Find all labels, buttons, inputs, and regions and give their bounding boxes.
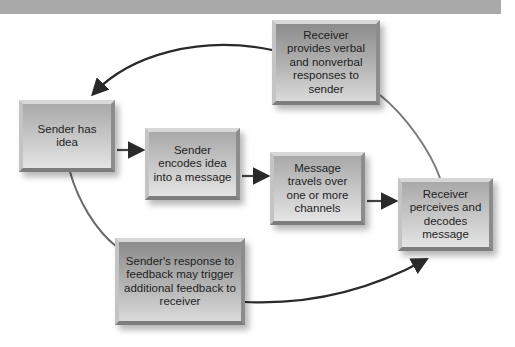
connector-arrows [0, 0, 515, 347]
node-label: Message travels over one or more channel… [274, 162, 361, 216]
node-label: Receiver perceives and decodes message [402, 188, 489, 242]
line-idea-to-response [70, 172, 117, 247]
node-label: Sender encodes idea into a message [149, 144, 236, 185]
arrow-response-to-receiver [245, 260, 425, 302]
node-label: Receiver provides verbal and nonverbal r… [276, 29, 376, 97]
node-label: Sender has idea [23, 123, 111, 150]
node-sender-encodes: Sender encodes idea into a message [145, 128, 240, 200]
node-sender-response: Sender's response to feedback may trigge… [115, 238, 245, 325]
node-receiver-perceives: Receiver perceives and decodes message [398, 178, 493, 251]
arrow-feedback-to-sender [94, 45, 272, 93]
node-receiver-provides: Receiver provides verbal and nonverbal r… [272, 20, 380, 105]
node-sender-has-idea: Sender has idea [19, 100, 115, 172]
line-receiver-perceives-to-provides [380, 95, 440, 178]
node-message-travels: Message travels over one or more channel… [270, 152, 365, 225]
node-label: Sender's response to feedback may trigge… [119, 255, 241, 309]
